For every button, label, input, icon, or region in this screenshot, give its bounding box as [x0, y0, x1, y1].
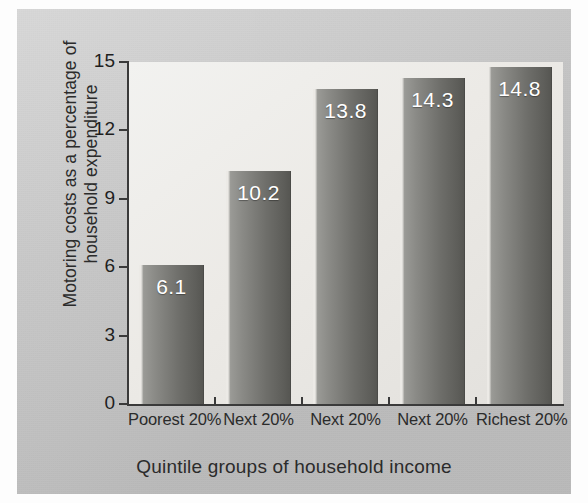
x-axis-title: Quintile groups of household income [17, 456, 571, 478]
y-axis-tick-mark [119, 403, 128, 405]
y-axis-tick-label: 0 [81, 392, 115, 414]
bar: 14.3 [400, 78, 466, 404]
y-axis-tick-mark [119, 61, 128, 63]
chart-panel: Motoring costs as a percentage of househ… [17, 9, 571, 494]
x-axis-tick-mark [475, 397, 477, 406]
y-axis-tick-mark [119, 266, 128, 268]
bar-value-label: 10.2 [226, 181, 292, 205]
x-axis-category-label: Richest 20% [476, 410, 563, 429]
y-axis-title-line-2: household expenditure [81, 84, 102, 263]
y-axis-tick-mark [119, 335, 128, 337]
x-axis-tick-mark [214, 397, 216, 406]
x-axis-tick-mark [301, 397, 303, 406]
bar-value-label: 14.3 [400, 88, 466, 112]
bar-value-label: 6.1 [139, 275, 205, 299]
x-axis-tick-mark [388, 397, 390, 406]
chart-screenshot: Motoring costs as a percentage of househ… [0, 0, 588, 503]
bar: 14.8 [487, 67, 553, 404]
bar: 13.8 [313, 89, 379, 404]
y-axis-tick-label: 15 [81, 50, 115, 72]
x-axis-category-label: Next 20% [215, 410, 302, 429]
x-axis-line [127, 404, 564, 406]
x-axis-category-label: Next 20% [389, 410, 476, 429]
y-axis-title-line-1: Motoring costs as a percentage of [60, 41, 81, 308]
bar: 6.1 [139, 265, 205, 404]
bar-value-label: 14.8 [487, 77, 553, 101]
y-axis-tick-mark [119, 198, 128, 200]
x-axis-category-label: Poorest 20% [128, 410, 215, 429]
y-axis-tick-label: 3 [81, 324, 115, 346]
y-axis-tick-label: 6 [81, 255, 115, 277]
y-axis-tick-mark [119, 129, 128, 131]
y-axis-tick-label: 12 [81, 118, 115, 140]
y-axis-line [127, 61, 129, 406]
bar-value-label: 13.8 [313, 99, 379, 123]
y-axis-tick-label: 9 [81, 187, 115, 209]
bar: 10.2 [226, 171, 292, 404]
x-axis-category-label: Next 20% [302, 410, 389, 429]
